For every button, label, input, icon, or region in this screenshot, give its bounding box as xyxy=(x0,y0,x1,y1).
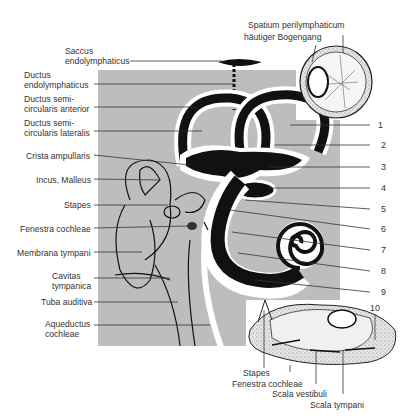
label-inset-stapes: Stapes xyxy=(243,368,270,378)
fenestra-cochleae-shape xyxy=(187,222,197,230)
label-aqueductus-line2: cochleae xyxy=(45,329,79,339)
number-4: 4 xyxy=(381,183,386,193)
label-ductus-lateralis-line1: Ductus semi- xyxy=(24,118,74,128)
label-inset-fenestra-cochleae: Fenestra cochleae xyxy=(232,379,303,389)
inset-membranous-canal xyxy=(300,46,372,118)
label-scala-vestibuli: Scala vestibuli xyxy=(272,389,327,399)
label-membrana-tympani: Membrana tympani xyxy=(17,248,91,258)
label-stapes: Stapes xyxy=(64,200,91,210)
label-incus-malleus: Incus, Malleus xyxy=(36,175,91,185)
label-ductus-endo-line2: endolymphaticus xyxy=(24,80,89,90)
label-tuba-auditiva: Tuba auditiva xyxy=(41,297,92,307)
number-10: 10 xyxy=(370,303,380,313)
number-8: 8 xyxy=(381,266,386,276)
number-9: 9 xyxy=(381,287,386,297)
number-7: 7 xyxy=(381,245,386,255)
number-6: 6 xyxy=(381,224,386,234)
label-saccus-line2: endolymphaticus xyxy=(65,56,130,66)
label-ductus-lateralis-line2: circularis lateralis xyxy=(24,128,90,138)
label-fenestra-cochleae: Fenestra cochleae xyxy=(20,224,91,234)
number-2: 2 xyxy=(381,140,386,150)
number-3: 3 xyxy=(381,162,386,172)
label-cavitas-line2: tympanica xyxy=(52,281,91,291)
label-crista-ampullaris: Crista ampullaris xyxy=(26,151,90,161)
label-ductus-endo-line1: Ductus xyxy=(24,70,51,80)
number-1: 1 xyxy=(378,120,383,130)
label-ductus-anterior-line1: Ductus semi- xyxy=(24,94,74,104)
label-haeutiger-bogengang: häutiger Bogengang xyxy=(244,32,321,42)
label-aqueductus-line1: Aqueductus xyxy=(45,319,90,329)
label-cavitas-line1: Cavitas xyxy=(52,271,81,281)
label-ductus-anterior-line2: circularis anterior xyxy=(24,104,89,114)
label-scala-tympani: Scala tympani xyxy=(310,400,364,410)
label-spatium-perilymphaticum: Spatium perilymphaticum xyxy=(248,20,344,30)
label-saccus-line1: Saccus xyxy=(65,46,93,56)
diagram-artwork xyxy=(0,0,407,419)
ear-anatomy-diagram: Spatium perilymphaticum häutiger Bogenga… xyxy=(0,0,407,419)
number-5: 5 xyxy=(381,204,386,214)
